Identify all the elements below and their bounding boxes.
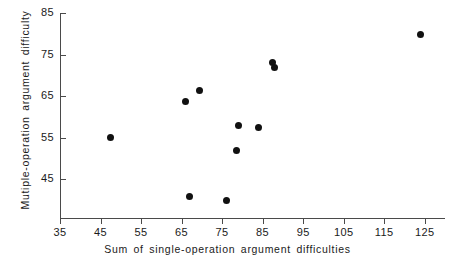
x-tick-label: 115 [364,226,404,238]
x-tick-label: 95 [283,226,323,238]
x-tick-label: 75 [202,226,242,238]
x-tick-label: 85 [243,226,283,238]
x-axis-title: Sum of single-operation argument difficu… [0,243,455,255]
x-tick-label: 45 [81,226,121,238]
x-tick-label: 65 [162,226,202,238]
x-tick-label: 125 [405,226,445,238]
x-tick [222,219,223,224]
x-tick-label: 55 [121,226,161,238]
y-tick-label: 65 [28,89,54,101]
x-tick [60,219,61,224]
x-tick [425,219,426,224]
x-tick [101,219,102,224]
x-tick-label: 105 [324,226,364,238]
x-axis-line [60,218,445,219]
y-tick-label: 55 [28,131,54,143]
data-point [233,147,240,154]
scatter-plot-figure: 35455565758595105115125 4555657585 Sum o… [0,0,455,265]
data-point [196,87,203,94]
y-tick-label: 45 [28,172,54,184]
plot-data-area [60,13,445,218]
x-tick [303,219,304,224]
y-tick-label: 85 [28,6,54,18]
x-tick-label: 35 [40,226,80,238]
y-tick-label: 75 [28,48,54,60]
data-point [235,122,242,129]
data-point [182,98,189,105]
x-tick [344,219,345,224]
x-tick [384,219,385,224]
y-axis-title: Mutiple-operation argument difficulty [19,0,31,220]
x-tick [141,219,142,224]
x-tick [263,219,264,224]
x-tick [182,219,183,224]
